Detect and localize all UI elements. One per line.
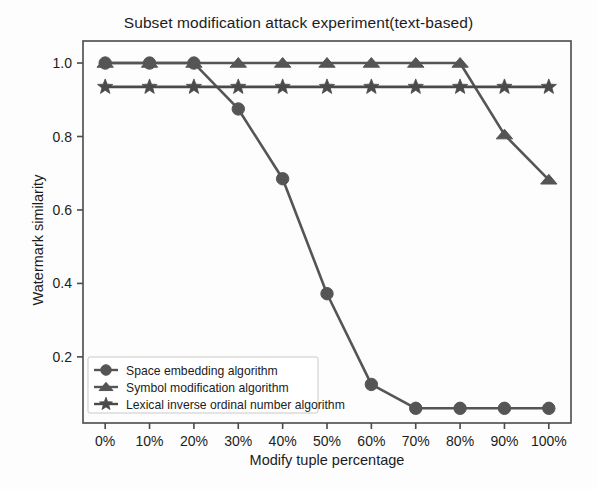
y-tick-label: 0.2	[53, 349, 73, 365]
data-point	[452, 79, 467, 93]
legend-marker	[101, 365, 112, 376]
x-tick-label: 40%	[269, 433, 297, 449]
data-point	[454, 402, 466, 414]
y-axis-ticks: 0.20.40.60.81.0	[53, 55, 83, 365]
data-point	[408, 79, 423, 93]
x-tick-label: 90%	[490, 433, 518, 449]
data-series	[97, 58, 557, 184]
data-point	[496, 129, 512, 139]
x-tick-label: 0%	[95, 433, 115, 449]
data-point	[186, 79, 201, 93]
x-tick-label: 100%	[531, 433, 567, 449]
x-tick-label: 30%	[224, 433, 252, 449]
x-tick-label: 70%	[402, 433, 430, 449]
legend-item-label: Symbol modification algorithm	[126, 381, 289, 395]
chart-figure: Subset modification attack experiment(te…	[0, 0, 597, 489]
data-point	[410, 402, 422, 414]
y-tick-label: 1.0	[53, 55, 73, 71]
data-point	[319, 79, 334, 93]
data-point	[275, 79, 290, 93]
data-point	[498, 402, 510, 414]
data-point	[142, 79, 157, 93]
x-tick-label: 50%	[313, 433, 341, 449]
data-point	[541, 79, 556, 93]
data-point	[365, 378, 377, 390]
x-tick-label: 10%	[136, 433, 164, 449]
x-axis-ticks: 0%10%20%30%40%50%60%70%80%90%100%	[95, 423, 567, 449]
legend-item-label: Lexical inverse ordinal number algorithm	[126, 398, 345, 412]
data-point	[364, 79, 379, 93]
data-point	[232, 103, 244, 115]
data-point	[276, 173, 288, 185]
legend-item-label: Space embedding algorithm	[126, 364, 278, 378]
x-tick-label: 80%	[446, 433, 474, 449]
data-point	[497, 79, 512, 93]
data-point	[231, 79, 246, 93]
chart-legend[interactable]: Space embedding algorithmSymbol modifica…	[88, 357, 345, 413]
y-tick-label: 0.4	[53, 275, 73, 291]
data-series	[98, 79, 557, 93]
data-point	[543, 402, 555, 414]
data-point	[321, 288, 333, 300]
x-axis-label: Modify tuple percentage	[83, 452, 571, 468]
x-tick-label: 60%	[357, 433, 385, 449]
x-tick-label: 20%	[180, 433, 208, 449]
plot-area: 0.20.40.60.81.0 0%10%20%30%40%50%60%70%8…	[0, 0, 597, 489]
data-point	[98, 79, 113, 93]
y-tick-label: 0.8	[53, 129, 73, 145]
y-tick-label: 0.6	[53, 202, 73, 218]
